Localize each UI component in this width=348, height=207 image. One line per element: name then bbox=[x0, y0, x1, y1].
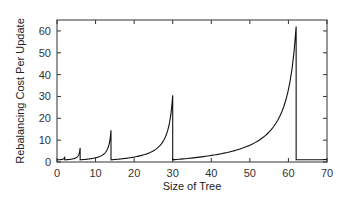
y-tick-label: 10 bbox=[39, 134, 51, 146]
y-tick-label: 0 bbox=[45, 156, 51, 168]
x-tick-label: 40 bbox=[205, 167, 217, 179]
x-axis-label: Size of Tree bbox=[163, 180, 222, 192]
x-tick-label: 60 bbox=[282, 167, 294, 179]
x-tick-label: 30 bbox=[167, 167, 179, 179]
x-tick-label: 20 bbox=[128, 167, 140, 179]
y-tick-label: 20 bbox=[39, 112, 51, 124]
series-line bbox=[57, 27, 327, 160]
plot-frame bbox=[57, 20, 327, 162]
y-tick-label: 60 bbox=[39, 25, 51, 37]
x-tick-label: 70 bbox=[321, 167, 333, 179]
y-axis-label: Rebalancing Cost Per Update bbox=[14, 18, 26, 164]
chart-container: 0102030405060700102030405060Size of Tree… bbox=[0, 0, 348, 207]
y-tick-label: 30 bbox=[39, 90, 51, 102]
x-tick-label: 50 bbox=[244, 167, 256, 179]
y-tick-label: 50 bbox=[39, 47, 51, 59]
x-tick-label: 10 bbox=[89, 167, 101, 179]
x-tick-label: 0 bbox=[54, 167, 60, 179]
y-tick-label: 40 bbox=[39, 69, 51, 81]
line-chart: 0102030405060700102030405060Size of Tree… bbox=[0, 0, 348, 207]
